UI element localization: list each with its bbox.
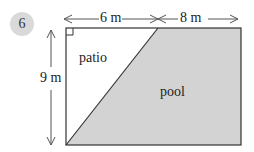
patio-label: patio [79,50,107,66]
top-right-dimension-label: 8 m [180,10,201,26]
height-dimension-label: 9 m [40,70,61,86]
patio-pool-diagram [0,0,254,152]
pool-label: pool [160,84,185,100]
top-left-dimension-label: 6 m [100,10,121,26]
pool-region [66,28,241,145]
right-angle-mark [66,28,73,35]
